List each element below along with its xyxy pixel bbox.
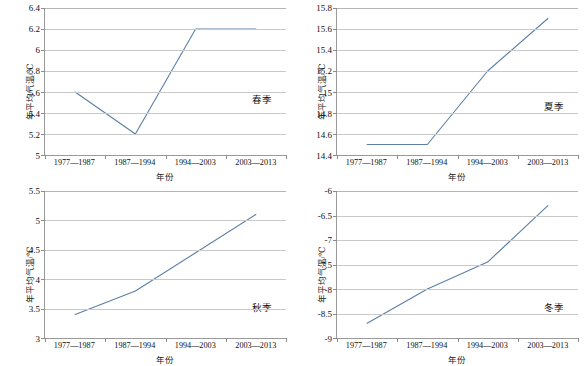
y-tickmark	[41, 92, 45, 93]
x-tickmark	[286, 338, 287, 342]
x-tick-label: 1987—1994	[406, 158, 447, 167]
y-tick-label: -6	[325, 186, 333, 196]
x-axis-title: 年份	[44, 353, 286, 365]
gridline	[337, 113, 578, 114]
x-tick-label: 1977—1987	[346, 158, 387, 167]
gridline	[45, 309, 286, 310]
x-tickmark	[578, 338, 579, 342]
gridline	[337, 265, 578, 266]
x-tick-label: 2003—2013	[235, 341, 276, 350]
gridline	[45, 250, 286, 251]
y-tickmark	[41, 191, 45, 192]
y-tickmark	[41, 71, 45, 72]
y-tickmark	[333, 50, 337, 51]
gridline	[45, 71, 286, 72]
y-tickmark	[333, 113, 337, 114]
gridline	[45, 113, 286, 114]
season-label: 秋季	[252, 300, 272, 314]
gridline	[45, 134, 286, 135]
y-tickmark	[333, 265, 337, 266]
x-tick-label: 1994—2003	[175, 341, 216, 350]
y-tickmark	[41, 29, 45, 30]
y-tick-label: 3.5	[29, 304, 40, 314]
plot-area: 秋季	[44, 191, 286, 339]
y-tick-label: 5.5	[29, 186, 40, 196]
y-tickmark	[333, 240, 337, 241]
y-tick-label: 14.6	[316, 130, 332, 140]
y-tickmark	[333, 134, 337, 135]
chart-panel-winter: 年平均气温/℃ -9-8.5-8-7.5-7-6.5-6 冬季 1977—198…	[292, 183, 584, 366]
gridline	[337, 289, 578, 290]
series-line	[75, 215, 256, 315]
y-axis-tick-labels: 55.25.45.65.866.26.4	[12, 8, 42, 156]
x-tick-label: 1977—1987	[54, 341, 95, 350]
line-series	[45, 8, 286, 155]
gridline	[45, 279, 286, 280]
y-tick-label: -7	[325, 235, 333, 245]
y-tick-label: 5.4	[29, 109, 40, 119]
y-tickmark	[333, 29, 337, 30]
gridline	[45, 50, 286, 51]
gridline	[337, 134, 578, 135]
x-tick-label: 2003—2013	[527, 341, 568, 350]
y-tick-label: 15	[323, 88, 332, 98]
chart-panel-summer: 年平均气温/℃ 14.414.614.81515.215.415.615.8 夏…	[292, 0, 584, 183]
y-tickmark	[41, 250, 45, 251]
gridline	[337, 8, 578, 9]
y-tickmark	[333, 289, 337, 290]
y-tickmark	[333, 92, 337, 93]
x-tickmark	[286, 155, 287, 159]
y-tick-label: 5	[36, 216, 41, 226]
gridline	[337, 71, 578, 72]
gridline	[337, 314, 578, 315]
series-line	[367, 19, 548, 145]
y-tick-label: 4	[36, 275, 41, 285]
x-tickmark	[578, 155, 579, 159]
x-tick-label: 1994—2003	[175, 158, 216, 167]
gridline	[45, 8, 286, 9]
y-tick-label: 15.4	[316, 45, 332, 55]
y-tick-label: 5.8	[29, 66, 40, 76]
gridline	[337, 29, 578, 30]
x-axis-title: 年份	[336, 353, 578, 365]
gridline	[45, 29, 286, 30]
y-tickmark	[41, 279, 45, 280]
plot-area: 春季	[44, 8, 286, 156]
season-label: 冬季	[544, 300, 564, 314]
y-tick-label: -7.5	[318, 260, 332, 270]
line-series	[337, 8, 578, 155]
y-tickmark	[333, 216, 337, 217]
y-tick-label: 14.8	[316, 109, 332, 119]
y-tickmark	[333, 71, 337, 72]
x-tick-label: 1987—1994	[114, 158, 155, 167]
y-tick-label: 4.5	[29, 245, 40, 255]
gridline	[45, 92, 286, 93]
x-tick-label: 1977—1987	[346, 341, 387, 350]
x-tick-label: 1987—1994	[114, 341, 155, 350]
x-tick-label: 1994—2003	[467, 341, 508, 350]
gridline	[337, 240, 578, 241]
gridline	[337, 50, 578, 51]
y-tick-label: 5	[36, 151, 41, 161]
y-axis-tick-labels: 14.414.614.81515.215.415.615.8	[304, 8, 334, 156]
y-axis-tick-labels: 33.544.555.5	[12, 191, 42, 339]
y-tick-label: -9	[325, 334, 333, 344]
x-tick-label: 1977—1987	[54, 158, 95, 167]
plot-area: 夏季	[336, 8, 578, 156]
season-label: 夏季	[544, 99, 564, 113]
y-tick-label: 15.2	[316, 66, 332, 76]
x-tick-label: 2003—2013	[235, 158, 276, 167]
x-axis-title: 年份	[336, 170, 578, 182]
line-series	[45, 191, 286, 338]
y-tick-label: 6.4	[29, 3, 40, 13]
chart-panel-autumn: 年平均气温/℃ 33.544.555.5 秋季 1977—19871987—19…	[0, 183, 292, 366]
y-tick-label: 15.6	[316, 24, 332, 34]
x-tick-label: 2003—2013	[527, 158, 568, 167]
season-label: 春季	[252, 92, 272, 106]
y-tick-label: 14.4	[316, 151, 332, 161]
y-tickmark	[333, 314, 337, 315]
y-tickmark	[41, 134, 45, 135]
y-tick-label: -6.5	[318, 211, 332, 221]
y-tickmark	[333, 191, 337, 192]
seasonal-temperature-figure: 年平均气温/℃ 55.25.45.65.866.26.4 春季 1977—198…	[0, 0, 584, 366]
